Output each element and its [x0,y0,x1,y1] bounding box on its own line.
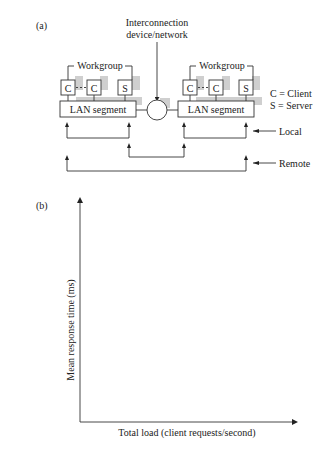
right-workgroup: Workgroup C C S LAN segment [178,60,262,117]
y-axis-label: Mean response time (ms) [65,279,77,380]
right-workgroup-label: Workgroup [199,60,244,71]
response-time-axes [80,200,295,422]
network-diagram: (a) Interconnection device/network Workg… [0,0,328,458]
interconnection-label-line1: Interconnection [126,17,189,28]
local-traffic-paths [65,122,248,157]
remote-label: Remote [279,158,311,169]
left-workgroup: Workgroup C C S LAN segment [60,60,142,117]
right-server-node-label: S [243,83,249,94]
right-client-node-2-label: C [213,83,220,94]
x-axis-label: Total load (client requests/second) [118,427,255,439]
left-server-node-label: S [122,83,128,94]
right-client-node-1-label: C [187,83,194,94]
local-label: Local [279,126,302,137]
right-lan-segment-label: LAN segment [188,104,245,115]
panel-a-label: (a) [36,20,47,32]
left-client-node-1-label: C [65,83,72,94]
panel-b-label: (b) [36,200,48,212]
left-workgroup-label: Workgroup [77,60,122,71]
left-client-node-2-label: C [91,83,98,94]
left-lan-segment-label: LAN segment [70,104,127,115]
legend-server: S = Server [270,100,313,111]
legend-client: C = Client [270,88,312,99]
interconnection-device [147,100,167,120]
interconnection-label-line2: device/network [126,29,188,40]
